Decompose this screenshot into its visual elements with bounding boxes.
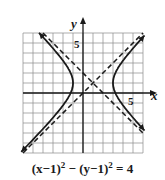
eq-part-1: (x−1)	[32, 161, 61, 176]
y-tick-5: 5	[74, 38, 80, 50]
eq-part-2: − (y−1)	[65, 161, 108, 176]
x-axis-label: x	[150, 88, 158, 103]
y-axis-label: y	[69, 16, 77, 31]
x-tick-5: 5	[128, 95, 134, 107]
equation-caption: (x−1)2 − (y−1)2 = 4	[0, 160, 165, 177]
hyperbola-graph: x y 5 5	[0, 0, 165, 160]
eq-part-3: = 4	[113, 161, 133, 176]
